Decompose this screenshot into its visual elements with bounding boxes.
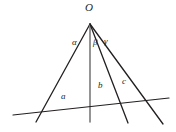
- segment-label-b: b: [98, 81, 103, 90]
- ray-right-line: [90, 24, 163, 124]
- figure-canvas: [0, 0, 176, 132]
- vertex-label-o: O: [85, 2, 93, 13]
- angle-label-gamma: γ: [104, 37, 108, 46]
- angle-label-alpha: α: [72, 38, 77, 47]
- segment-label-c: c: [122, 77, 126, 86]
- geometry-figure: O α β γ a b c: [0, 0, 176, 132]
- segment-label-a: a: [61, 92, 66, 101]
- angle-label-beta: β: [93, 38, 97, 47]
- transversal-line: [13, 98, 169, 115]
